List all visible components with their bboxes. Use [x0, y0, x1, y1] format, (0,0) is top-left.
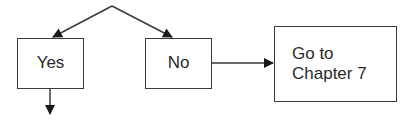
go-to-chapter-box: Go to Chapter 7: [274, 26, 397, 102]
yes-label: Yes: [37, 53, 65, 73]
no-label: No: [168, 53, 190, 73]
flowchart-canvas: Yes No Go to Chapter 7: [0, 0, 412, 124]
chapter-label-line-1: Go to: [292, 44, 334, 64]
edge-apex-to-no: [112, 6, 172, 37]
yes-box: Yes: [17, 38, 84, 89]
chapter-label-line-2: Chapter 7: [292, 64, 367, 84]
no-box: No: [145, 38, 212, 89]
chapter-label: Go to Chapter 7: [292, 44, 367, 85]
edge-apex-to-yes: [53, 6, 112, 37]
